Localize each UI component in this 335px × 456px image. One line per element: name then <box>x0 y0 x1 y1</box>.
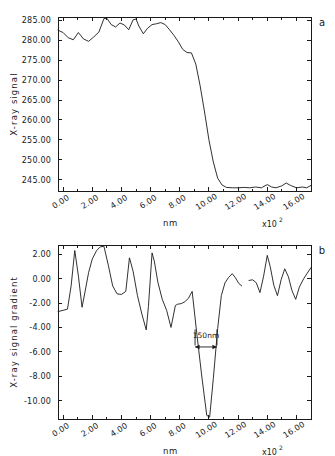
xtick-label-a-5: 10.00 <box>194 192 219 212</box>
ytick-label-b-5: 0.00 <box>32 275 51 284</box>
xtick-label-a-1: 2.00 <box>80 193 101 211</box>
ytick-label-a-7: 280.00 <box>22 36 51 45</box>
plot-frame-a <box>58 17 311 191</box>
xtick-label-a-2: 4.00 <box>109 193 130 211</box>
annotation-arrowhead-left-0 <box>195 345 200 349</box>
x-axis-title-b: nm <box>163 446 178 456</box>
y-axis-title-a: X-ray signal <box>9 72 19 135</box>
xtick-label-b-1: 2.00 <box>80 421 101 439</box>
xtick-label-a-3: 6.00 <box>138 193 159 211</box>
xtick-label-b-6: 12.00 <box>223 420 248 440</box>
xtick-label-b-7: 14.00 <box>252 420 277 440</box>
ytick-label-b-2: -6.00 <box>29 348 51 357</box>
ytick-label-a-5: 270.00 <box>22 76 51 85</box>
panel-letter-a: a <box>319 17 325 28</box>
figure-container: 0.002.004.006.008.0010.0012.0014.0016.00… <box>0 0 335 456</box>
x-axis-exponent-power-b: 2 <box>279 444 283 451</box>
x-axis-exponent-a: x10 <box>262 220 277 228</box>
xtick-label-a-8: 16.00 <box>282 192 307 212</box>
ytick-label-a-3: 260.00 <box>22 116 51 125</box>
xtick-label-a-7: 14.00 <box>252 192 277 212</box>
xtick-label-a-4: 8.00 <box>167 193 188 211</box>
xtick-label-b-5: 10.00 <box>194 420 219 440</box>
chart-panel-b: 0.002.004.006.008.0010.0012.0014.0016.00… <box>0 228 335 456</box>
ytick-label-a-2: 255.00 <box>22 136 51 145</box>
ytick-label-a-1: 250.00 <box>22 156 51 165</box>
ytick-label-b-1: -8.00 <box>29 372 51 381</box>
xtick-label-b-3: 6.00 <box>138 421 159 439</box>
ytick-label-b-4: -2.00 <box>29 299 51 308</box>
data-line-b-1 <box>249 255 311 299</box>
panel-letter-b: b <box>319 245 325 256</box>
ytick-label-b-3: -4.00 <box>29 323 51 332</box>
plot-frame-b <box>58 245 311 419</box>
chart-panel-a: 0.002.004.006.008.0010.0012.0014.0016.00… <box>0 0 335 228</box>
xtick-label-b-0: 0.00 <box>50 421 71 439</box>
ytick-label-b-0: -10.00 <box>24 397 51 406</box>
x-axis-exponent-b: x10 <box>262 448 277 456</box>
chart-svg-b: 0.002.004.006.008.0010.0012.0014.0016.00… <box>0 228 335 456</box>
xtick-label-b-4: 8.00 <box>167 421 188 439</box>
xtick-label-b-8: 16.00 <box>282 420 307 440</box>
chart-svg-a: 0.002.004.006.008.0010.0012.0014.0016.00… <box>0 0 335 228</box>
xtick-label-b-2: 4.00 <box>109 421 130 439</box>
xtick-label-a-0: 0.00 <box>50 193 71 211</box>
ytick-label-a-6: 275.00 <box>22 56 51 65</box>
ytick-label-a-8: 285.00 <box>22 16 51 25</box>
annotation-label-0: 150nm <box>193 331 219 340</box>
ytick-label-a-4: 265.00 <box>22 96 51 105</box>
data-line-a-0 <box>58 18 311 188</box>
x-axis-title-a: nm <box>163 218 178 228</box>
x-axis-exponent-power-a: 2 <box>279 216 283 223</box>
y-axis-title-b: X-ray signal gradient <box>9 276 19 388</box>
ytick-label-b-6: 2.00 <box>32 250 51 259</box>
xtick-label-a-6: 12.00 <box>223 192 248 212</box>
ytick-label-a-0: 245.00 <box>22 176 51 185</box>
